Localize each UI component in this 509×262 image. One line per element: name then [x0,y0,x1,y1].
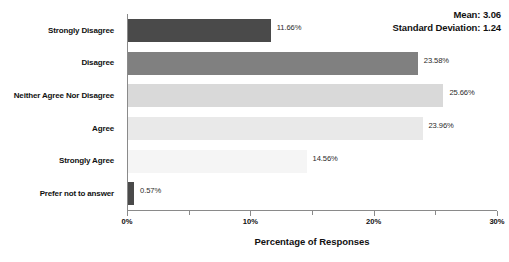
x-axis-tick-label: 10% [243,217,258,226]
bar-value-label: 23.58% [424,56,449,65]
bar-row: 0.57% [127,177,497,210]
y-axis-line [127,14,128,211]
x-axis-tick-label: 0% [122,217,133,226]
category-label-strongly-disagree: Strongly Disagree [0,14,120,47]
bar-prefer-not-to-answer [127,182,134,205]
bar-value-label: 11.66% [277,23,302,32]
bar-value-label: 14.56% [313,154,338,163]
category-label-prefer-not-to-answer: Prefer not to answer [0,177,120,210]
bar-row: 11.66% [127,14,497,47]
category-label-neither-agree-nor-disagree: Neither Agree Nor Disagree [0,79,120,112]
bar-row: 23.58% [127,47,497,80]
x-axis-tick-label: 30% [489,217,504,226]
bar-strongly-agree [127,150,307,173]
x-axis-tick [374,211,375,216]
horizontal-bar-chart: Mean: 3.06 Standard Deviation: 1.24 Stro… [0,0,509,262]
plot-area: 11.66% 23.58% 25.66% 23.96% 14.56% 0.57% [127,14,497,210]
category-label-strongly-agree: Strongly Agree [0,145,120,178]
x-axis-tick [497,211,498,216]
bar-disagree [127,52,418,75]
bar-strongly-disagree [127,19,271,42]
bar-row: 25.66% [127,79,497,112]
x-axis-title: Percentage of Responses [127,236,497,247]
bar-value-label: 23.96% [429,121,454,130]
category-label-disagree: Disagree [0,47,120,80]
bar-row: 14.56% [127,145,497,178]
category-axis-labels: Strongly Disagree Disagree Neither Agree… [0,14,120,210]
x-axis-tick [312,211,313,215]
bar-row: 23.96% [127,112,497,145]
category-label-agree: Agree [0,112,120,145]
bar-value-label: 25.66% [449,88,474,97]
x-axis-tick-label: 20% [366,217,381,226]
bar-agree [127,117,423,140]
x-axis-tick [127,211,128,216]
x-axis-tick [435,211,436,215]
bar-neither-agree-nor-disagree [127,84,443,107]
x-axis-tick [189,211,190,215]
x-axis-tick [250,211,251,216]
bar-value-label: 0.57% [140,186,161,195]
